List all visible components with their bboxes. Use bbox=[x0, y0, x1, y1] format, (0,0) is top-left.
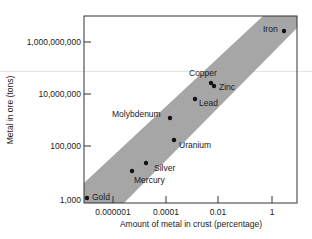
label-mercury: Mercury bbox=[134, 176, 165, 185]
x-tick-label: 1 bbox=[270, 208, 275, 217]
label-silver: Silver bbox=[154, 164, 175, 173]
y-tick-label: 100,000 bbox=[50, 142, 81, 151]
y-ticks bbox=[84, 42, 91, 146]
x-tick-label: 0.000001 bbox=[95, 208, 130, 217]
label-gold: Gold bbox=[92, 193, 110, 202]
point-mercury bbox=[130, 169, 134, 173]
label-uranium: Uranium bbox=[179, 141, 211, 150]
y-axis-label: Metal in ore (tons) bbox=[5, 76, 15, 145]
label-iron: Iron bbox=[263, 25, 278, 34]
plot-area bbox=[0, 0, 312, 239]
label-zinc: Zinc bbox=[219, 83, 235, 92]
point-lead bbox=[193, 97, 197, 101]
x-tick-label: 0.01 bbox=[210, 208, 227, 217]
label-copper: Copper bbox=[189, 69, 217, 78]
x-tick-label: 0.0001 bbox=[153, 208, 179, 217]
label-molybdenum: Molybdenum bbox=[112, 110, 161, 119]
point-gold bbox=[85, 196, 89, 200]
y-tick-label: 10,000,000 bbox=[38, 90, 81, 99]
point-molybdenum bbox=[168, 116, 172, 120]
y-tick-label: 1,000,000,000 bbox=[27, 38, 81, 47]
point-silver bbox=[144, 161, 148, 165]
y-tick-label: 1,000 bbox=[60, 196, 81, 205]
label-lead: Lead bbox=[199, 99, 218, 108]
x-ticks bbox=[113, 196, 272, 203]
x-axis-label: Amount of metal in crust (percentage) bbox=[120, 219, 262, 229]
point-zinc bbox=[212, 84, 216, 88]
point-uranium bbox=[172, 138, 176, 142]
point-iron bbox=[282, 29, 286, 33]
